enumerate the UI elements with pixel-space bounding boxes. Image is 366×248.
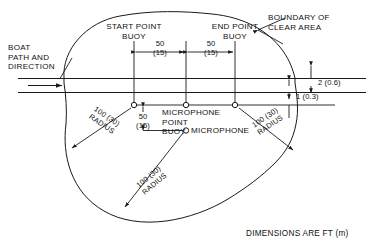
boat-path-direction-label: BOAT PATH AND DIRECTION — [8, 43, 55, 72]
dim-m-value: (15) — [153, 48, 167, 57]
dim-ft-value: 50 — [139, 112, 148, 121]
boat-path-band — [18, 79, 366, 93]
dimension-text-buoyline-to-microphone: 50 (15) — [127, 112, 159, 130]
start-buoy-line-2: BUOY — [122, 32, 146, 41]
dim-ft-value: 50 — [156, 39, 165, 48]
marker-end-point-buoy — [232, 102, 237, 107]
units-note: DIMENSIONS ARE FT (m) — [246, 229, 348, 239]
marker-start-point-buoy — [131, 102, 136, 107]
boat-path-line-3: DIRECTION — [8, 62, 55, 71]
boat-path-line-1: BOAT — [8, 43, 30, 52]
dim-ft-value: 50 — [207, 39, 216, 48]
dim-m-value: (15) — [136, 121, 150, 130]
mic-point-buoy-line-1: MICROPHONE — [162, 108, 220, 117]
marker-mic-point-buoy — [183, 102, 188, 107]
end-buoy-line-1: END POINT — [212, 22, 258, 31]
dimension-text-mic-to-end: 50 (15) — [195, 39, 227, 57]
mic-point-buoy-line-2: POINT — [162, 118, 188, 127]
start-buoy-line-1: START POINT — [106, 22, 161, 31]
boundary-line-2: CLEAR AREA — [268, 23, 321, 32]
figure-canvas: BOAT PATH AND DIRECTION START POINT BUOY… — [0, 0, 366, 248]
dimension-text-start-to-mic: 50 (15) — [144, 39, 176, 57]
dimension-text-band-outer: 2 (0.6) — [318, 78, 362, 87]
dimension-text-band-inner: 1 (0.3) — [296, 92, 338, 101]
boundary-clear-area-label: BOUNDARY OF CLEAR AREA — [268, 13, 364, 32]
boat-path-line-2: PATH AND — [8, 53, 49, 62]
boundary-line-1: BOUNDARY OF — [268, 13, 330, 22]
dim-m-value: (15) — [204, 48, 218, 57]
mic-point-buoy-line-3: BUOY — [162, 127, 186, 136]
